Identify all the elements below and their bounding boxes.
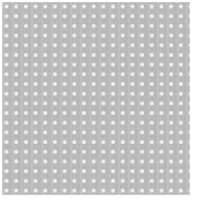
caption-strip: ■■■■■ ■■■	[0, 196, 204, 213]
right-margin-band	[190, 0, 204, 213]
perforated-grid-swatch	[2, 2, 190, 195]
screenshot-canvas: ■■■■■ ■■■	[0, 0, 204, 213]
